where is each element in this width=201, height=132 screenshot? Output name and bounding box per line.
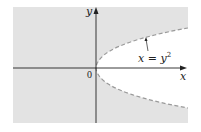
curve-label: x = y2 — [138, 51, 171, 65]
parabola-region-figure: y x 0 x = y2 — [0, 0, 201, 132]
origin-label: 0 — [87, 69, 92, 80]
x-axis-label: x — [180, 70, 187, 83]
y-axis-label: y — [85, 5, 93, 18]
curve-label-lhs: x = y — [138, 52, 167, 65]
curve-label-exponent: 2 — [167, 51, 171, 59]
